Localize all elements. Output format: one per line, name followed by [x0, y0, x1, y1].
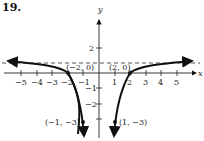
point-neg1-neg3 — [81, 120, 85, 124]
point-label: (−2, 0) — [66, 63, 94, 72]
x-tick-label: 2 — [127, 78, 132, 87]
x-tick-label: −3 — [46, 78, 58, 87]
x-tick-label: 3 — [143, 78, 148, 87]
point-1-neg3 — [113, 120, 117, 124]
x-tick-label: 1 — [112, 78, 117, 87]
graph-canvas: −5 −4 −3 −2 −1 1 2 3 4 5 2 −1 −2 y x 19.… — [0, 0, 204, 141]
y-tick-label: −1 — [85, 84, 97, 93]
x-tick-label: 5 — [174, 78, 179, 87]
graph-figure: −5 −4 −3 −2 −1 1 2 3 4 5 2 −1 −2 y x 19.… — [0, 0, 204, 141]
point-label: (−1, −3) — [45, 118, 80, 127]
point-label: (1, −3) — [119, 118, 147, 127]
problem-number: 19. — [2, 1, 21, 14]
x-tick-label: −4 — [31, 78, 43, 87]
x-tick-label: −5 — [15, 78, 27, 87]
y-tick-label: −2 — [85, 100, 97, 109]
x-tick-label: 4 — [158, 78, 163, 87]
x-axis-label: x — [198, 69, 203, 78]
y-axis-label: y — [97, 5, 103, 14]
point-label: (2, 0) — [109, 63, 131, 72]
y-tick-label: 2 — [89, 44, 94, 53]
